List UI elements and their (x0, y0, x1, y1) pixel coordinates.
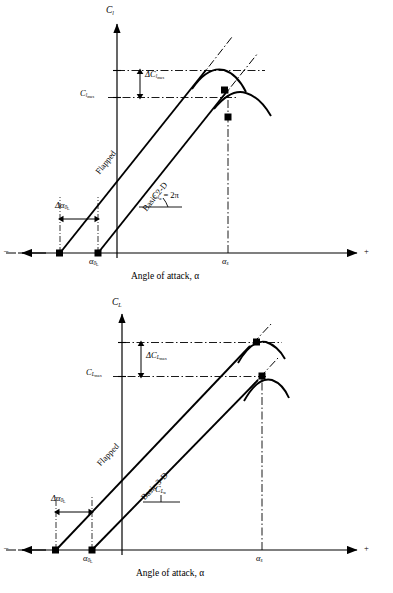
alpha-zero-lift-tick-label: α0L (89, 256, 99, 268)
alpha-stall-tick-label: αs (222, 256, 229, 266)
x-axis-negative-sign: – (4, 245, 8, 255)
lift-slope-label: CLα (155, 484, 166, 496)
y-axis-title: CL (112, 297, 122, 308)
delta-clmax-label: ΔCLmax (146, 350, 167, 362)
x-axis-caption: Angle of attack, α (131, 271, 199, 281)
panel-top-graphic (0, 0, 393, 296)
x-axis-positive-sign: + (364, 543, 369, 553)
x-axis-caption: Angle of attack, α (136, 568, 204, 578)
marker-flapped-clmax (221, 87, 228, 94)
basic-3d-stall-curve (244, 379, 289, 401)
flapped-stall-curve (238, 342, 285, 363)
basic-3d-lift-line (92, 380, 258, 550)
marker-flapped-zero-lift (56, 250, 63, 257)
marker-flapped-clmax (253, 339, 260, 346)
delta-alpha-arrow-head-right (95, 216, 101, 222)
delta-clmax-arrow-head-down (137, 94, 144, 100)
alpha-zero-lift-tick-label: α0L (83, 553, 93, 565)
lift-curve-diagram-3d: CL ΔCLmax CLmax Flapped Basic 3-D CLα Δα… (0, 296, 393, 592)
x-axis-positive-sign: + (364, 246, 369, 256)
delta-alpha-zero-lift-label: Δα0L (51, 493, 66, 505)
figure-page: Cl ΔClmax Clmax Flapped Basic 2-D Clα = … (0, 0, 393, 593)
panel-bottom-graphic (0, 296, 393, 593)
clmax-label: CLmax (86, 367, 102, 379)
delta-clmax-arrow-head-down (138, 373, 145, 379)
y-axis-title: Cl (106, 5, 114, 16)
alpha-stall-tick-label: αs (256, 553, 263, 563)
delta-clmax-arrow-head-up (137, 69, 144, 75)
delta-clmax-arrow-head-up (138, 341, 145, 347)
flapped-stall-curve (192, 69, 246, 92)
delta-clmax-label: ΔClmax (145, 69, 164, 81)
delta-alpha-arrow-head-left (58, 216, 64, 222)
marker-flapped-zero-lift (52, 547, 59, 554)
lift-slope-label: Clα = 2π (152, 190, 179, 202)
x-axis-negative-sign: – (4, 542, 8, 552)
delta-alpha-zero-lift-label: Δα0L (55, 200, 70, 212)
clmax-label: Clmax (80, 88, 94, 100)
delta-alpha-arrow-head-left (54, 509, 60, 515)
marker-basic-clmax (225, 114, 232, 121)
marker-basic-clmax (259, 373, 266, 380)
lift-curve-diagram-2d: Cl ΔClmax Clmax Flapped Basic 2-D Clα = … (0, 0, 393, 296)
